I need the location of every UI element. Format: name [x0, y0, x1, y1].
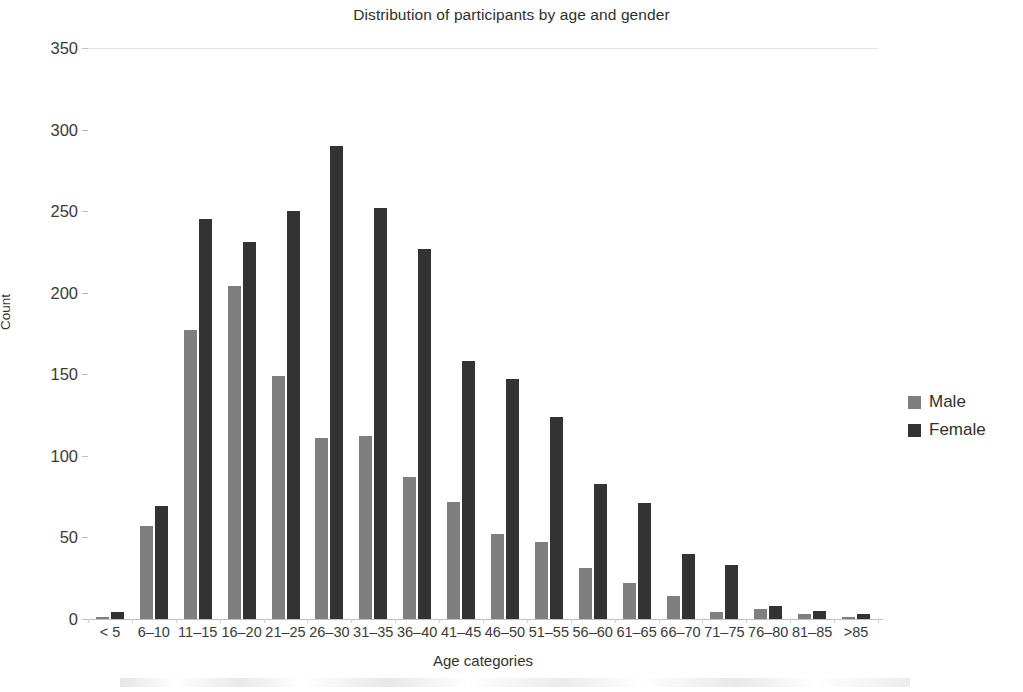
x-tick-mark-11 — [571, 619, 572, 623]
x-tick-label-16: 81–85 — [790, 624, 834, 640]
x-tick-mark-10 — [527, 619, 528, 623]
x-tick-label-9: 46–50 — [483, 624, 527, 640]
x-tick-label-14: 71–75 — [702, 624, 746, 640]
bar-female-3640 — [418, 249, 431, 619]
bar-male-2125 — [272, 376, 285, 619]
bar-male-6165 — [623, 583, 636, 619]
x-tick-label-2: 11–15 — [176, 624, 220, 640]
legend-swatch-icon-male — [908, 396, 921, 409]
bar-male-4650 — [491, 534, 504, 619]
x-tick-mark-0 — [88, 619, 89, 623]
scan-artifact — [120, 678, 910, 687]
bar-male-1620 — [228, 286, 241, 619]
bar-female-7680 — [769, 606, 782, 619]
y-axis-tick-labels: 050100150200250300350 — [26, 48, 78, 619]
y-tick-label-250: 250 — [32, 202, 78, 221]
x-tick-mark-9 — [483, 619, 484, 623]
bar-male-4145 — [447, 502, 460, 619]
y-tick-label-300: 300 — [32, 120, 78, 139]
bar-female-1620 — [243, 242, 256, 619]
x-tick-label-10: 51–55 — [527, 624, 571, 640]
x-tick-label-4: 21–25 — [264, 624, 308, 640]
x-tick-mark-1 — [132, 619, 133, 623]
y-axis-title: Count — [0, 294, 13, 330]
y-tick-mark-200 — [82, 293, 88, 294]
bar-female-8185 — [813, 611, 826, 619]
y-tick-label-50: 50 — [32, 528, 78, 547]
legend-label-female: Female — [929, 420, 986, 440]
bar-male-6670 — [667, 596, 680, 619]
chart-canvas: Distribution of participants by age and … — [0, 0, 1023, 692]
x-tick-mark-end — [878, 619, 879, 623]
x-tick-label-8: 41–45 — [439, 624, 483, 640]
x-tick-label-15: 76–80 — [746, 624, 790, 640]
x-tick-mark-6 — [351, 619, 352, 623]
x-tick-mark-4 — [264, 619, 265, 623]
bar-female-6670 — [682, 554, 695, 619]
x-tick-label-7: 36–40 — [395, 624, 439, 640]
legend-swatch-icon-female — [908, 424, 921, 437]
y-tick-label-0: 0 — [32, 610, 78, 629]
bar-male-3640 — [403, 477, 416, 619]
x-tick-label-1: 6–10 — [132, 624, 176, 640]
bar-female-2125 — [287, 211, 300, 619]
x-tick-label-0: < 5 — [88, 624, 132, 640]
x-tick-mark-16 — [790, 619, 791, 623]
chart-legend: MaleFemale — [908, 388, 1018, 444]
y-tick-label-150: 150 — [32, 365, 78, 384]
x-tick-mark-2 — [176, 619, 177, 623]
legend-label-male: Male — [929, 392, 966, 412]
y-tick-mark-300 — [82, 130, 88, 131]
bar-female-6165 — [638, 503, 651, 619]
bar-female-5660 — [594, 484, 607, 619]
x-tick-mark-7 — [395, 619, 396, 623]
gridline-350 — [88, 48, 878, 49]
bar-male-1115 — [184, 330, 197, 619]
x-tick-label-5: 26–30 — [307, 624, 351, 640]
y-tick-label-100: 100 — [32, 446, 78, 465]
page-title: Distribution of participants by age and … — [0, 6, 1023, 24]
plot-area — [88, 48, 878, 619]
bar-female-2630 — [330, 146, 343, 619]
legend-item-female[interactable]: Female — [908, 416, 1018, 444]
x-tick-mark-17 — [834, 619, 835, 623]
legend-item-male[interactable]: Male — [908, 388, 1018, 416]
x-tick-mark-8 — [439, 619, 440, 623]
y-tick-label-200: 200 — [32, 283, 78, 302]
y-tick-mark-350 — [82, 48, 88, 49]
bar-male-5155 — [535, 542, 548, 619]
bar-female-610 — [155, 506, 168, 619]
x-tick-label-13: 66–70 — [659, 624, 703, 640]
x-tick-label-17: >85 — [834, 624, 878, 640]
y-tick-mark-100 — [82, 456, 88, 457]
x-tick-mark-14 — [702, 619, 703, 623]
bar-male-2630 — [315, 438, 328, 619]
bar-female-3135 — [374, 208, 387, 619]
y-tick-label-350: 350 — [32, 39, 78, 58]
bar-female-5155 — [550, 417, 563, 619]
bar-female-4650 — [506, 379, 519, 619]
bar-male-610 — [140, 526, 153, 619]
bar-female-4145 — [462, 361, 475, 619]
x-axis-baseline — [88, 619, 883, 620]
x-tick-label-6: 31–35 — [351, 624, 395, 640]
x-tick-label-3: 16–20 — [220, 624, 264, 640]
bar-male-7680 — [754, 609, 767, 619]
y-tick-mark-150 — [82, 374, 88, 375]
x-tick-mark-13 — [659, 619, 660, 623]
bar-male-3135 — [359, 436, 372, 619]
y-tick-mark-50 — [82, 537, 88, 538]
x-tick-label-12: 61–65 — [615, 624, 659, 640]
x-tick-mark-5 — [307, 619, 308, 623]
x-tick-label-11: 56–60 — [571, 624, 615, 640]
x-axis-tick-labels: < 56–1011–1516–2021–2526–3031–3536–4041–… — [88, 624, 878, 650]
bar-female-1115 — [199, 219, 212, 619]
bar-male-5660 — [579, 568, 592, 619]
x-tick-mark-12 — [615, 619, 616, 623]
bar-female-7175 — [725, 565, 738, 619]
x-axis-title: Age categories — [88, 652, 878, 669]
x-tick-mark-15 — [746, 619, 747, 623]
x-tick-mark-3 — [220, 619, 221, 623]
y-tick-mark-250 — [82, 211, 88, 212]
